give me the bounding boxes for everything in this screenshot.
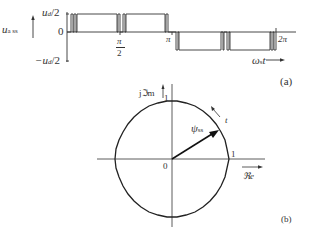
arrowhead-icon	[209, 130, 219, 138]
panel-b-label: (b)	[281, 215, 292, 224]
unit-top-label: 1	[164, 94, 169, 103]
arrowhead-icon	[162, 84, 165, 89]
unit-right-label: 1	[231, 150, 236, 159]
x-tick-pi-label: π	[166, 35, 171, 44]
y-axis-label: ua ss	[2, 24, 18, 35]
arrowhead-icon	[31, 15, 34, 20]
y-tick-zero-label: 0	[58, 26, 64, 37]
real-axis-label: ℜe	[243, 172, 254, 181]
imag-axis-label: jℑm	[139, 89, 155, 98]
psi-vector	[172, 130, 219, 159]
arrowhead-icon	[258, 165, 263, 168]
rotation-label: t	[225, 116, 228, 125]
x-axis-label: ωst	[252, 55, 266, 66]
x-tick-pi-half-num: π	[117, 37, 122, 46]
panel-b-axes	[97, 84, 265, 227]
x-tick-two-pi-label: 2π	[278, 35, 287, 44]
diagram-canvas	[0, 0, 310, 235]
x-label-arrow	[266, 58, 285, 61]
y-tick-bottom-label: −ud/2	[35, 55, 60, 66]
rotation-arrow	[211, 106, 220, 117]
y-tick-top-label: ud/2	[42, 7, 60, 18]
vector-label: ψss	[191, 123, 203, 134]
panel-a-label: (a)	[280, 76, 292, 87]
origin-label: 0	[163, 162, 168, 171]
x-tick-pi-half-den: 2	[117, 49, 122, 58]
